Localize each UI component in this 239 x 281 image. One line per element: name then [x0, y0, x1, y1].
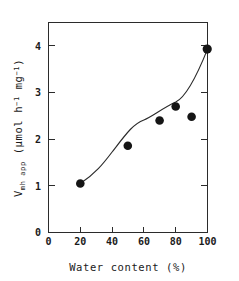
y-tick-label-3: 3	[35, 87, 41, 98]
y-tick-label-4: 4	[35, 41, 41, 52]
x-tick-label-60: 60	[138, 236, 150, 247]
data-point-5	[187, 113, 196, 122]
data-point-4	[171, 102, 180, 111]
x-axis-title: Water content (%)	[69, 261, 187, 273]
y-axis-subscript: mh app	[19, 161, 27, 190]
y-axis-units-mg: mg	[12, 75, 24, 89]
x-tick-label-40: 40	[106, 236, 118, 247]
data-point-2	[124, 141, 133, 150]
x-tick-label-20: 20	[74, 236, 86, 247]
x-tick-label-80: 80	[170, 236, 182, 247]
data-point-1	[76, 179, 85, 188]
scatter-plot: 0 20 40 60 80 100 0 1 2 3 4 Water conten	[0, 0, 239, 281]
y-axis-units-close: )	[12, 59, 24, 66]
y-axis-units-sup2: −1	[13, 66, 21, 76]
x-tick-label-0: 0	[45, 236, 51, 247]
y-tick-label-2: 2	[35, 134, 41, 145]
y-axis-units-mumolh: μmol h	[12, 106, 24, 148]
y-axis-units-sup1: −1	[13, 96, 21, 106]
data-point-6	[203, 45, 212, 54]
figure-container: 0 20 40 60 80 100 0 1 2 3 4 Water conten	[0, 0, 239, 281]
y-tick-label-0: 0	[35, 227, 41, 238]
data-point-3	[155, 116, 164, 125]
y-axis-units-open: (	[12, 147, 24, 154]
y-tick-label-1: 1	[35, 181, 41, 192]
x-tick-label-100: 100	[198, 236, 216, 247]
